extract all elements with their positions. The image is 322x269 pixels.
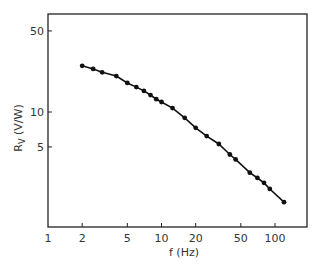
data-point-marker: [100, 70, 105, 75]
data-point-marker: [216, 142, 221, 147]
data-point-marker: [125, 81, 130, 86]
data-point-marker: [193, 125, 198, 130]
data-point-marker: [227, 152, 232, 157]
data-point-marker: [267, 187, 272, 192]
data-point-marker: [282, 200, 287, 205]
x-tick-label: 20: [189, 232, 203, 245]
x-axis-ticks: 125102050100: [45, 223, 286, 245]
x-axis-label: f (Hz): [169, 246, 199, 259]
data-point-marker: [114, 74, 119, 79]
y-tick-label: 50: [30, 25, 44, 38]
y-tick-label: 10: [30, 106, 44, 119]
x-tick-label: 100: [265, 232, 286, 245]
x-tick-label: 1: [45, 232, 52, 245]
data-point-marker: [148, 93, 153, 98]
x-tick-label: 10: [155, 232, 169, 245]
data-point-marker: [80, 63, 85, 68]
plot-frame: [48, 14, 307, 227]
data-point-marker: [204, 134, 209, 139]
series-line: [82, 66, 284, 202]
data-point-marker: [142, 89, 147, 94]
data-point-marker: [91, 67, 96, 72]
y-axis-label-unit: (V/W): [12, 104, 25, 138]
responsivity-chart: 125102050100 51050 f (Hz) RV (V/W): [0, 0, 322, 269]
data-point-marker: [170, 106, 175, 111]
data-point-marker: [182, 115, 187, 120]
y-axis-label: RV (V/W): [12, 104, 27, 151]
data-point-marker: [255, 176, 260, 181]
data-point-marker: [159, 100, 164, 105]
data-point-marker: [262, 180, 267, 185]
data-point-marker: [233, 157, 238, 162]
x-tick-label: 5: [124, 232, 131, 245]
data-point-marker: [154, 97, 159, 102]
y-tick-label: 5: [37, 141, 44, 154]
x-tick-label: 50: [234, 232, 248, 245]
data-point-marker: [134, 85, 139, 90]
data-series: [80, 63, 287, 204]
data-point-marker: [247, 170, 252, 175]
y-axis-ticks: 51050: [30, 25, 52, 154]
x-tick-label: 2: [79, 232, 86, 245]
